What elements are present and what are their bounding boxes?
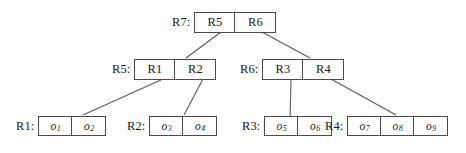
node-r7[interactable]: R7: R5 R6	[172, 12, 276, 33]
node-leaf-r4-entry-0[interactable]: o7	[348, 117, 381, 135]
node-leaf-r4-box[interactable]: o7 o8 o9	[347, 116, 448, 136]
node-leaf-r1-entry-1[interactable]: o2	[72, 117, 105, 135]
node-r7-box[interactable]: R5 R6	[194, 12, 276, 33]
node-leaf-r3[interactable]: R3: o5 o6	[242, 116, 332, 136]
edge-r7r5-to-r5	[186, 32, 221, 58]
edge-r5r1-to-leaf-r1	[83, 79, 163, 115]
node-leaf-r1-entry-0[interactable]: o1	[39, 117, 72, 135]
node-r7-entry-1[interactable]: R6	[235, 13, 275, 32]
node-leaf-r3-entry-0[interactable]: o5	[265, 117, 298, 135]
node-leaf-r3-box[interactable]: o5 o6	[264, 116, 332, 136]
node-r6[interactable]: R6: R3 R4	[240, 59, 344, 80]
node-r6-label: R6:	[240, 62, 262, 77]
node-r6-entry-1[interactable]: R4	[303, 60, 343, 79]
edge-r7r6-to-r6	[262, 32, 310, 58]
node-r7-label: R7:	[172, 15, 194, 30]
r-tree-diagram: R7: R5 R6 R5: R1 R2 R6: R3 R4 R1: o1 o2 …	[0, 0, 466, 153]
node-leaf-r4-label: R4:	[325, 119, 347, 134]
node-r5[interactable]: R5: R1 R2	[112, 59, 216, 80]
node-leaf-r2[interactable]: R2: o3 o4	[127, 116, 217, 136]
node-r5-entry-1[interactable]: R2	[175, 60, 215, 79]
node-r5-entry-0[interactable]: R1	[135, 60, 175, 79]
edge-r5r2-to-leaf-r2	[184, 79, 203, 115]
node-leaf-r4-entry-1[interactable]: o8	[381, 117, 414, 135]
node-leaf-r1[interactable]: R1: o1 o2	[16, 116, 106, 136]
node-leaf-r3-label: R3:	[242, 119, 264, 134]
node-leaf-r2-box[interactable]: o3 o4	[149, 116, 217, 136]
node-leaf-r2-entry-0[interactable]: o3	[150, 117, 183, 135]
edge-r6r4-to-leaf-r4	[331, 79, 396, 115]
node-r5-label: R5:	[112, 62, 134, 77]
node-r5-box[interactable]: R1 R2	[134, 59, 216, 80]
node-leaf-r2-entry-1[interactable]: o4	[183, 117, 216, 135]
node-r7-entry-0[interactable]: R5	[195, 13, 235, 32]
node-leaf-r2-label: R2:	[127, 119, 149, 134]
node-r6-entry-0[interactable]: R3	[263, 60, 303, 79]
node-leaf-r4-entry-2[interactable]: o9	[414, 117, 447, 135]
node-r6-box[interactable]: R3 R4	[262, 59, 344, 80]
node-leaf-r1-label: R1:	[16, 119, 38, 134]
node-leaf-r1-box[interactable]: o1 o2	[38, 116, 106, 136]
node-leaf-r4[interactable]: R4: o7 o8 o9	[325, 116, 448, 136]
